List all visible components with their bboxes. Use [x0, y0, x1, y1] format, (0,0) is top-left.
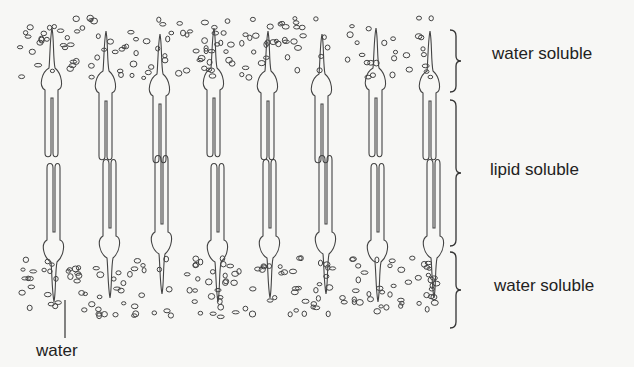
label-lipid-soluble: lipid soluble [490, 160, 579, 180]
label-water-soluble-bottom: water soluble [494, 276, 594, 296]
label-water: water [36, 341, 78, 361]
label-water-soluble-top: water soluble [492, 44, 592, 64]
